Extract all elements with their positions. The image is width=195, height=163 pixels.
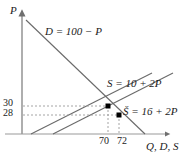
demand-curve-label: D = 100 − P bbox=[45, 26, 102, 37]
supply-demand-figure: P Q, D, S D = 100 − P S = 10 + 2P Š = 16… bbox=[0, 0, 195, 163]
supply-curve-1-label: S = 10 + 2P bbox=[107, 78, 162, 89]
y-axis-label: P bbox=[10, 5, 17, 16]
x-axis-label: Q, D, S bbox=[146, 141, 178, 152]
equilibrium-point-2 bbox=[117, 113, 122, 118]
x-tick-72: 72 bbox=[117, 136, 127, 146]
y-tick-28: 28 bbox=[3, 108, 13, 118]
supply-curve-2-label: Š = 16 + 2P bbox=[123, 106, 178, 117]
equilibrium-point-1 bbox=[106, 104, 111, 109]
x-tick-70: 70 bbox=[99, 136, 109, 146]
